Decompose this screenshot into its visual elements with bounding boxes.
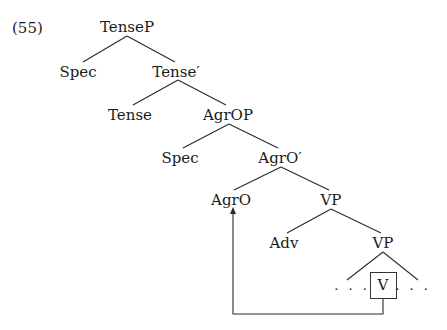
node-vp-1: VP <box>321 193 342 208</box>
node-spec-2: Spec <box>161 151 198 166</box>
branch-agrop-agrobar <box>229 124 278 148</box>
branch-tensebar-tense <box>133 80 178 105</box>
node-tense: Tense <box>108 108 152 123</box>
node-agro: AgrO <box>211 193 251 208</box>
node-vp-2: VP <box>373 236 394 251</box>
branch-vp-vp <box>331 209 381 233</box>
branch-tensebar-agrop <box>178 80 226 105</box>
node-v: V <box>378 278 389 293</box>
branch-vp-adv <box>287 209 331 233</box>
node-dots-left: · · · <box>334 283 370 296</box>
branch-agrobar-vp <box>281 167 329 190</box>
node-dots-right: · · · <box>395 283 431 296</box>
syntax-tree-diagram: (55) TenseP Spec Tense′ Tense <box>0 0 447 330</box>
branch-tensep-tensebar <box>127 36 175 62</box>
node-adv: Adv <box>270 236 299 251</box>
node-agrop: AgrOP <box>203 108 253 123</box>
node-tensep: TenseP <box>100 20 154 35</box>
branch-tensep-spec <box>83 36 127 62</box>
node-agro-bar: AgrO′ <box>258 151 301 166</box>
branch-agrop-spec <box>183 124 229 148</box>
branch-agrobar-agro <box>234 167 281 190</box>
node-tense-bar: Tense′ <box>152 65 199 80</box>
movement-arrow-line <box>233 210 383 314</box>
node-spec-1: Spec <box>59 65 96 80</box>
